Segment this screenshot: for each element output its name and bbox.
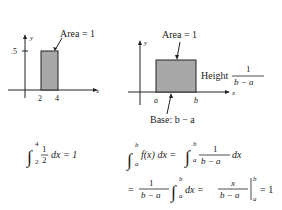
- lhs: f(x) dx =: [141, 149, 176, 161]
- integral-sign: ∫: [126, 150, 133, 171]
- left-plot: x y .5 2 4 Area = 1: [8, 28, 100, 103]
- frac-den: b − a: [201, 156, 221, 166]
- left-area-label: Area = 1: [60, 28, 95, 39]
- lower-limit: 2: [35, 158, 39, 166]
- mid-text: dx =: [185, 184, 204, 195]
- right-area-label: Area = 1: [162, 29, 197, 40]
- upper-limit-2: b: [193, 140, 197, 148]
- right-equation-line2: = 1 b − a ∫ b a dx = x b − a b a = 1: [128, 175, 273, 203]
- lower-limit: a: [135, 160, 139, 168]
- right-y-arrow: [138, 40, 142, 45]
- left-y-arrow: [23, 34, 27, 39]
- frac2-den: b − a: [220, 190, 240, 200]
- left-equation: ∫ 4 2 1 2 dx = 1: [26, 140, 77, 168]
- right-rect: [156, 60, 196, 92]
- left-rect: [41, 51, 58, 90]
- upper-limit: 4: [35, 140, 39, 148]
- height-label: Height: [201, 70, 228, 81]
- right-x-tick-b: b: [194, 96, 198, 105]
- integral-sign: ∫: [26, 147, 33, 168]
- upper-limit: b: [135, 141, 139, 149]
- figure-canvas: x y .5 2 4 Area = 1 x y a b Area = 1 Bas…: [0, 0, 282, 210]
- left-y-tick-label: .5: [11, 47, 17, 56]
- integral-sign-2: ∫: [184, 147, 191, 168]
- eval-upper: b: [253, 175, 257, 183]
- right-area-arrowhead: [175, 55, 179, 60]
- left-x-tick-2: 2: [38, 94, 42, 103]
- right-x-tick-a: a: [154, 96, 158, 105]
- frac-num: 1: [149, 178, 154, 188]
- frac-num: 1: [42, 144, 47, 154]
- right-x-arrow: [225, 90, 230, 94]
- frac-den: b − a: [141, 190, 161, 200]
- upper-limit: b: [179, 175, 183, 183]
- height-den: b − a: [234, 77, 254, 87]
- right-equation-line1: ∫ b a f(x) dx = ∫ b a 1 b − a dx: [126, 140, 242, 171]
- frac-num: 1: [213, 144, 218, 154]
- lower-limit: a: [179, 192, 183, 200]
- base-arrowhead: [169, 93, 173, 98]
- lower-limit-2: a: [193, 156, 197, 164]
- integral-sign: ∫: [170, 182, 177, 203]
- right-plot: x y a b Area = 1 Base: b − a Height 1 b …: [128, 29, 264, 125]
- frac2-num: x: [230, 178, 235, 188]
- right-y-label: y: [143, 39, 148, 47]
- left-x-label: x: [95, 87, 100, 95]
- left-y-label: y: [29, 34, 34, 42]
- equals: =: [128, 184, 134, 195]
- height-num: 1: [246, 64, 251, 74]
- base-label: Base: b − a: [150, 114, 195, 125]
- right-x-label: x: [231, 89, 236, 97]
- equation-rest: dx: [232, 149, 242, 160]
- equation-rest: dx = 1: [51, 149, 77, 160]
- eval-lower: a: [253, 195, 257, 203]
- equation-rest: = 1: [260, 184, 273, 195]
- frac-den: 2: [42, 155, 47, 165]
- left-x-tick-4: 4: [55, 94, 59, 103]
